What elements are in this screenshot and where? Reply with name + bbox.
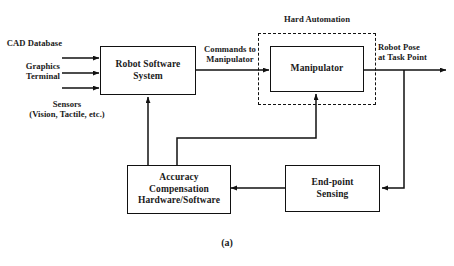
connector-wires (0, 0, 454, 266)
block-end-point-sensing[interactable]: End-point Sensing (285, 165, 380, 212)
block-robot-software-system[interactable]: Robot Software System (100, 46, 196, 95)
input-label-sensors: Sensors (Vision, Tactile, etc.) (2, 99, 132, 120)
block-manipulator-label: Manipulator (291, 63, 344, 75)
figure-caption: (a) (0, 237, 454, 248)
block-diagram: Robot Software System Manipulator Accura… (0, 0, 454, 266)
block-end-point-sensing-label: End-point Sensing (311, 177, 353, 200)
block-robot-software-system-label: Robot Software System (116, 59, 181, 82)
input-label-cad-database: CAD Database (0, 38, 62, 48)
block-manipulator[interactable]: Manipulator (270, 46, 364, 92)
hard-automation-group-label: Hard Automation (255, 14, 379, 24)
signal-label-robot-pose: Robot Pose at Task Point (378, 42, 454, 63)
signal-label-commands-to-manipulator: Commands to Manipulator (192, 44, 268, 65)
block-accuracy-compensation-label: Accuracy Compensation Hardware/Software (138, 172, 220, 207)
input-label-graphics-terminal: Graphics Terminal (0, 61, 60, 82)
block-accuracy-compensation[interactable]: Accuracy Compensation Hardware/Software (127, 165, 231, 214)
